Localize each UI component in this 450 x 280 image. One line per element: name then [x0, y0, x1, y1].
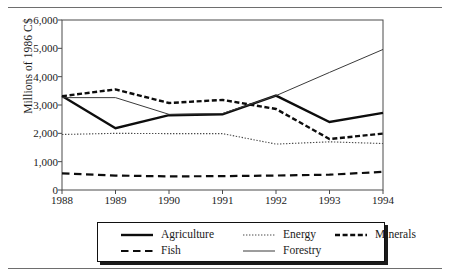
- figure: Millions of 1986 C$ 01,0002,0003,0004,00…: [0, 0, 450, 280]
- legend-row: AgricultureEnergyMinerals: [98, 227, 384, 243]
- chart-legend: AgricultureEnergyMineralsFishForestry: [97, 222, 385, 262]
- legend-swatch-forestry: [242, 246, 276, 256]
- legend-label: Fish: [161, 245, 181, 257]
- legend-swatch-minerals: [334, 230, 368, 240]
- legend-label: Energy: [283, 229, 316, 241]
- legend-swatch-fish: [120, 246, 154, 256]
- legend-swatch-agriculture: [120, 230, 154, 240]
- legend-swatch-energy: [242, 230, 276, 240]
- series-line-forestry: [62, 49, 383, 114]
- legend-label: Agriculture: [161, 229, 214, 241]
- legend-item-forestry[interactable]: Forestry: [242, 245, 334, 257]
- legend-item-agriculture[interactable]: Agriculture: [120, 229, 242, 241]
- legend-label: Forestry: [283, 245, 321, 257]
- legend-item-energy[interactable]: Energy: [242, 229, 334, 241]
- plot-frame: [62, 20, 383, 190]
- legend-item-fish[interactable]: Fish: [120, 245, 242, 257]
- legend-row: FishForestry: [98, 243, 384, 259]
- legend-label: Minerals: [375, 229, 416, 241]
- series-line-fish: [62, 172, 383, 177]
